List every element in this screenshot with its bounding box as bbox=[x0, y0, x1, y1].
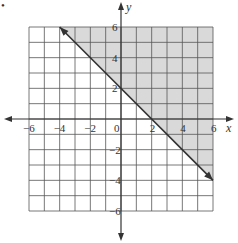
x-tick-label: −4 bbox=[54, 122, 66, 134]
x-axis-left-arrow-icon bbox=[4, 116, 12, 122]
y-tick-label: 4 bbox=[112, 52, 118, 64]
x-tick-label: 6 bbox=[211, 122, 217, 134]
x-tick-label: 2 bbox=[150, 122, 156, 134]
coordinate-plane: • −6−4−20246 642−2−4−6 x y bbox=[0, 0, 238, 243]
x-tick-label: 4 bbox=[180, 122, 186, 134]
y-tick-label: −4 bbox=[109, 174, 121, 186]
x-tick-label: 0 bbox=[114, 122, 120, 134]
x-tick-label: −2 bbox=[84, 122, 96, 134]
y-axis-up-arrow-icon bbox=[118, 2, 124, 10]
x-tick-label: −6 bbox=[23, 122, 35, 134]
y-tick-label: −2 bbox=[109, 144, 121, 156]
bullet-marker: • bbox=[1, 0, 5, 11]
x-axis-label: x bbox=[225, 121, 232, 135]
y-tick-label: 6 bbox=[112, 21, 118, 33]
y-tick-label: −6 bbox=[109, 205, 121, 217]
y-axis-down-arrow-icon bbox=[118, 233, 124, 241]
y-axis-label: y bbox=[125, 0, 132, 14]
